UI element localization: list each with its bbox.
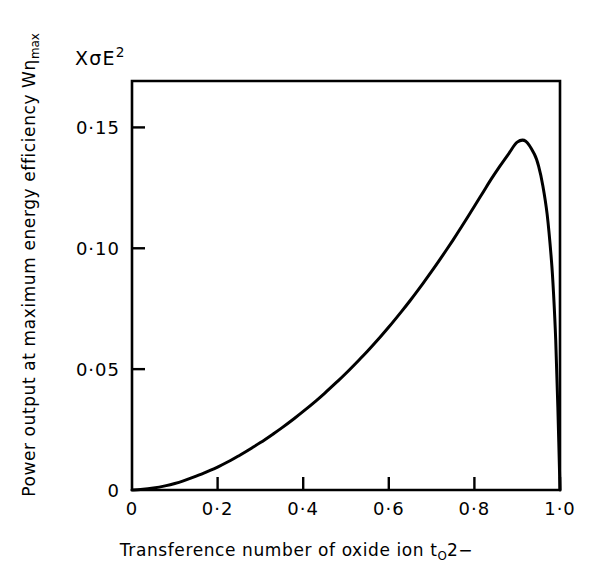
x-tick-label: 0 <box>126 498 138 519</box>
y-tick-label: 0·05 <box>76 359 120 380</box>
y-tick-label: 0 <box>108 480 120 501</box>
data-curve <box>132 140 560 490</box>
x-tick-label: 0·2 <box>202 498 234 519</box>
x-tick-label: 0·8 <box>459 498 491 519</box>
x-tick-label: 0·4 <box>287 498 319 519</box>
axis-frame <box>132 81 560 490</box>
y-tick-label: 0·10 <box>76 238 120 259</box>
x-axis-tick-marks <box>218 477 560 490</box>
plot-area <box>0 0 593 575</box>
y-tick-label: 0·15 <box>76 117 120 138</box>
y-axis-tick-marks <box>132 127 145 369</box>
x-tick-label: 0·6 <box>373 498 405 519</box>
x-tick-label: 1·0 <box>544 498 576 519</box>
figure-container: XσE2 Power output at maximum energy effi… <box>0 0 593 575</box>
